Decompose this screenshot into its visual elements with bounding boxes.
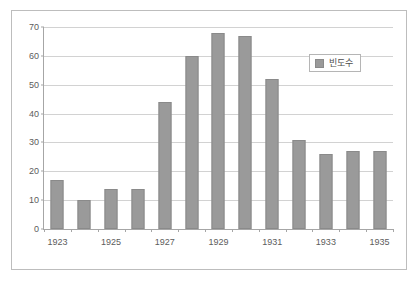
- bar-1929[interactable]: [212, 33, 225, 229]
- y-tick-label: 20: [29, 167, 39, 176]
- bar-1926[interactable]: [131, 189, 144, 229]
- bar-1933[interactable]: [319, 154, 332, 229]
- bar-1932[interactable]: [293, 140, 306, 229]
- x-tick-mark: [339, 229, 340, 232]
- legend: 빈도수: [309, 54, 361, 72]
- x-tick-mark: [286, 229, 287, 232]
- x-tick-mark: [98, 229, 99, 232]
- x-tick-label: 1923: [47, 237, 67, 247]
- y-tick-label: 70: [29, 23, 39, 32]
- x-tick-mark: [312, 229, 313, 232]
- x-tick-mark: [393, 229, 394, 232]
- bar-slot: [232, 27, 259, 229]
- bar-1935[interactable]: [373, 151, 386, 229]
- y-tick-label: 40: [29, 109, 39, 118]
- x-tick-mark: [232, 229, 233, 232]
- bar-1927[interactable]: [158, 102, 171, 229]
- y-tick-label: 0: [34, 225, 39, 234]
- x-tick-label: 1935: [370, 237, 390, 247]
- x-tick-mark: [44, 229, 45, 232]
- x-tick-mark: [178, 229, 179, 232]
- y-tick-label: 10: [29, 196, 39, 205]
- x-tick-mark: [205, 229, 206, 232]
- bar-slot: [259, 27, 286, 229]
- chart-frame: 010203040506070 192319251927192919311933…: [11, 10, 407, 270]
- x-tick-mark: [125, 229, 126, 232]
- bar-1923[interactable]: [51, 180, 64, 229]
- x-tick-mark: [259, 229, 260, 232]
- bar-1931[interactable]: [266, 79, 279, 229]
- bar-1930[interactable]: [239, 36, 252, 229]
- bar-slot: [71, 27, 98, 229]
- x-tick-label: 1925: [101, 237, 121, 247]
- bar-1928[interactable]: [185, 56, 198, 229]
- bar-slot: [366, 27, 393, 229]
- legend-swatch-frequency: [315, 59, 324, 68]
- bar-slot: [178, 27, 205, 229]
- y-tick-label: 30: [29, 138, 39, 147]
- x-tick-label: 1931: [262, 237, 282, 247]
- bar-1925[interactable]: [105, 189, 118, 229]
- legend-label-frequency: 빈도수: [329, 58, 353, 68]
- bar-slot: [205, 27, 232, 229]
- x-tick-mark: [151, 229, 152, 232]
- bar-1924[interactable]: [78, 200, 91, 229]
- y-tick-label: 50: [29, 80, 39, 89]
- bar-1934[interactable]: [346, 151, 359, 229]
- x-tick-label: 1933: [316, 237, 336, 247]
- x-tick-mark: [71, 229, 72, 232]
- x-tick-label: 1929: [208, 237, 228, 247]
- x-tick-label: 1927: [155, 237, 175, 247]
- bar-slot: [44, 27, 71, 229]
- y-tick-label: 60: [29, 51, 39, 60]
- bar-slot: [125, 27, 152, 229]
- bar-slot: [98, 27, 125, 229]
- bar-slot: [151, 27, 178, 229]
- x-tick-mark: [366, 229, 367, 232]
